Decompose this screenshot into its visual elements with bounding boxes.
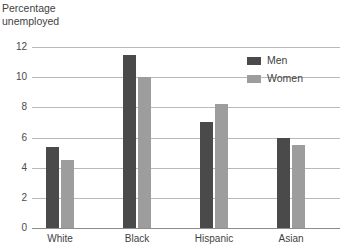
chart-legend: MenWomen [247, 53, 337, 89]
chart-title: Percentage unemployed [2, 2, 122, 27]
bar-men-white [46, 147, 59, 228]
bar-chart: Percentage unemployed 121086420 WhiteBla… [0, 0, 341, 252]
bar-men-hispanic [200, 122, 213, 228]
x-axis-tick-label: White [47, 233, 73, 244]
legend-label: Men [267, 55, 287, 66]
bar-group: Black [123, 47, 151, 228]
bar-women-white [61, 160, 74, 228]
bar-women-black [138, 77, 151, 228]
y-axis-tick-label: 10 [16, 72, 27, 82]
y-axis-tick-label: 0 [21, 223, 27, 233]
x-axis-tick-label: Black [125, 233, 149, 244]
bar-group: Hispanic [200, 47, 228, 228]
y-axis-tick-label: 6 [21, 133, 27, 143]
y-axis-tick-label: 12 [16, 42, 27, 52]
legend-item: Men [247, 53, 337, 68]
legend-swatch-men [247, 57, 261, 65]
x-axis-tick-label: Hispanic [195, 233, 233, 244]
bar-men-asian [277, 138, 290, 229]
y-axis-tick-label: 8 [21, 102, 27, 112]
y-axis-tick-label: 2 [21, 193, 27, 203]
legend-swatch-women [247, 75, 261, 83]
bar-men-black [123, 55, 136, 228]
axis-baseline: 0 [32, 228, 340, 229]
x-axis-tick-label: Asian [278, 233, 303, 244]
legend-item: Women [247, 71, 337, 86]
bar-group: White [46, 47, 74, 228]
y-axis-tick-label: 4 [21, 163, 27, 173]
bar-women-hispanic [215, 104, 228, 228]
legend-label: Women [267, 73, 303, 84]
bar-women-asian [292, 145, 305, 228]
